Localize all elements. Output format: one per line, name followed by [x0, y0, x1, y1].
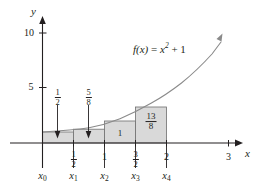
fraction-thirteen-eighths: 13 8 — [146, 112, 157, 132]
partition-index: 3 — [136, 174, 140, 183]
curve-arrowhead — [217, 34, 223, 42]
fraction-denominator: 8 — [85, 97, 91, 107]
fraction-denominator: 2 — [132, 159, 138, 169]
partition-base: x — [69, 170, 74, 181]
fraction-denominator: 2 — [54, 97, 60, 107]
partition-base: x — [100, 170, 105, 181]
x-tick-label-one-half: 1 2 — [70, 150, 76, 169]
function-label: f(x) = x2 + 1 — [133, 42, 186, 55]
partition-label-x1: x1 — [69, 171, 77, 182]
fraction-denominator: 2 — [70, 159, 76, 169]
partition-index: 2 — [105, 174, 109, 183]
partition-base: x — [162, 170, 167, 181]
fraction-numerator: 1 — [70, 150, 76, 159]
partition-index: 0 — [43, 174, 47, 183]
fraction-one-half: 1 2 — [54, 88, 60, 107]
partition-label-x2: x2 — [100, 171, 108, 182]
x-axis-label: x — [245, 148, 250, 159]
x-axis-arrowhead — [235, 140, 243, 147]
partition-label-x4: x4 — [162, 171, 170, 182]
partition-base: x — [131, 170, 136, 181]
riemann-sum-figure: y x 10 5 1 2 1 3 2 2 3 x0 x1 x2 x3 x4 1 … — [0, 0, 262, 193]
fraction-numerator: 13 — [146, 112, 157, 121]
fraction-numerator: 5 — [85, 88, 91, 97]
fraction-five-eighths: 5 8 — [85, 88, 91, 107]
rectangle-1-area-label: 1 2 — [54, 88, 60, 107]
x-tick-label-three-halves: 3 2 — [132, 150, 138, 169]
fraction-numerator: 1 — [54, 88, 60, 97]
fraction-one-half: 1 2 — [70, 150, 76, 169]
y-tick-label-5: 5 — [26, 82, 36, 92]
fraction-three-halves: 3 2 — [132, 150, 138, 169]
plot-canvas — [0, 0, 262, 193]
x-tick-label-1: 1 — [102, 152, 107, 162]
x-tick-label-2: 2 — [164, 152, 169, 162]
partition-index: 4 — [167, 174, 171, 183]
x-tick-label-3: 3 — [226, 152, 231, 162]
y-tick-label-10: 10 — [22, 28, 36, 38]
rectangle-2-area-label: 5 8 — [85, 88, 91, 107]
rectangle-4-area-label: 13 8 — [146, 112, 157, 132]
fraction-denominator: 8 — [146, 122, 157, 132]
partition-label-x3: x3 — [131, 171, 139, 182]
partition-base: x — [38, 170, 43, 181]
function-lhs: f(x) — [133, 43, 148, 55]
rectangle-3-area-label: 1 — [118, 129, 123, 138]
partition-index: 1 — [74, 174, 78, 183]
fraction-numerator: 3 — [132, 150, 138, 159]
function-tail: + 1 — [171, 43, 185, 55]
partition-label-x0: x0 — [38, 171, 46, 182]
function-equals: = — [151, 43, 157, 55]
y-axis-arrowhead — [39, 16, 46, 24]
y-axis-label: y — [31, 6, 36, 17]
